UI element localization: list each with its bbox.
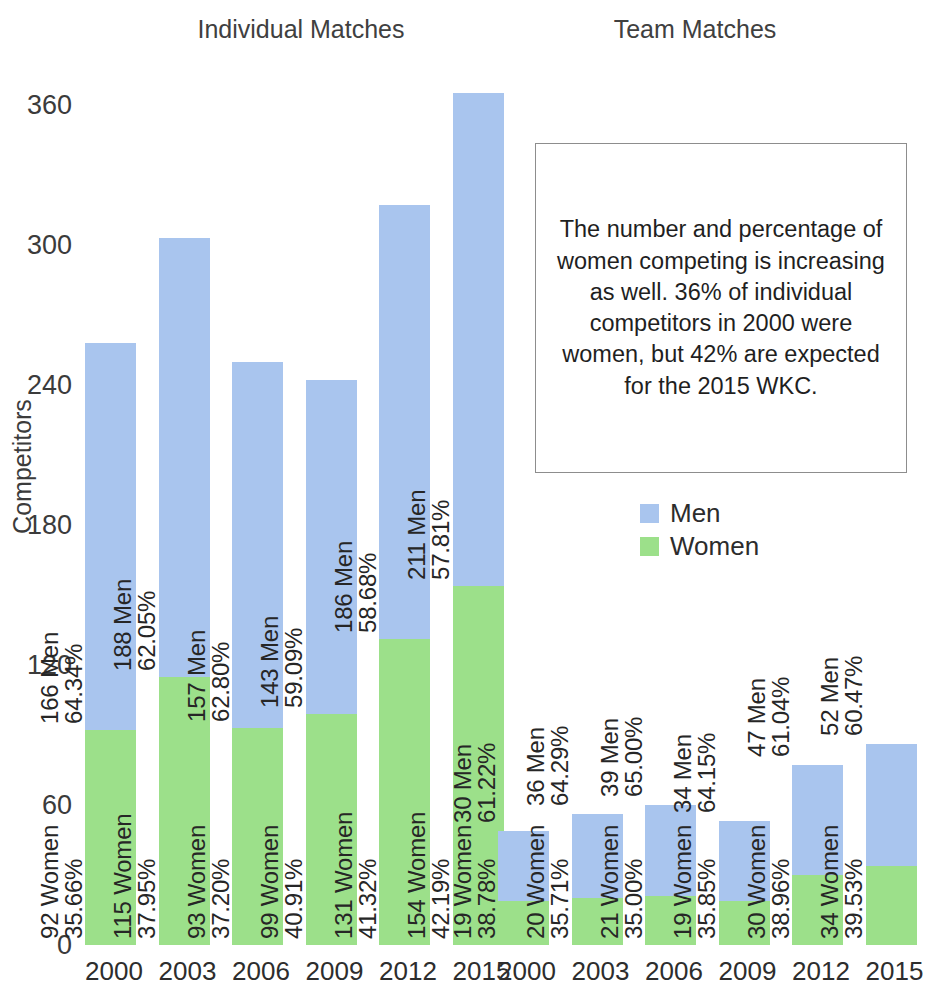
bar-label-women-percent: 39.53% (842, 825, 866, 939)
x-axis-tick-label: 2012 (792, 956, 843, 987)
bar-label-women-count: 115 Women (109, 814, 136, 939)
bar-label-women-count: 30 Women (742, 825, 769, 939)
bar-segment-men[interactable]: 188 Men62.05% (159, 238, 210, 677)
bar-label-men: 166 Men64.34% (37, 632, 86, 724)
bar-label-women-percent: 35.85% (695, 825, 719, 939)
bar-label-men-percent: 62.80% (209, 630, 233, 722)
bar-label-men-percent: 58.68% (356, 541, 380, 633)
bar-label-men: 36 Men64.29% (524, 726, 573, 806)
bar-label-men-count: 36 Men (522, 728, 549, 807)
x-axis-tick-label: 2003 (572, 956, 623, 987)
bar-group[interactable]: 34 Women39.53%52 Men60.47% (866, 744, 917, 945)
bar-label-men-percent: 64.29% (548, 726, 572, 806)
bar-label-women: 99 Women40.91% (258, 825, 307, 939)
legend-item-label: Men (670, 498, 721, 529)
chart-canvas: Individual Matches Team Matches Competit… (0, 0, 927, 991)
bar-label-women: 131 Women41.32% (331, 812, 380, 939)
legend-swatch-icon (640, 504, 659, 523)
bar-label-women-count: 21 Women (595, 825, 622, 939)
bar-label-women-percent: 37.20% (209, 825, 233, 939)
bar-label-men-count: 30 Men (448, 744, 475, 823)
bar-label-women: 34 Women39.53% (818, 825, 867, 939)
x-axis-tick-label: 2015 (453, 956, 504, 987)
bar-label-men: 143 Men59.09% (258, 616, 307, 708)
bar-label-men-count: 157 Men (182, 630, 209, 722)
legend-item-label: Women (670, 531, 759, 562)
bar-label-men-count: 186 Men (329, 541, 356, 633)
bar-label-women-count: 131 Women (329, 812, 356, 939)
bar-label-women-count: 19 Women (448, 825, 475, 939)
x-axis-tick-label: 2000 (85, 956, 136, 987)
bar-label-men-percent: 64.15% (695, 733, 719, 813)
bar-label-women-count: 19 Women (669, 825, 696, 939)
bar-label-men-count: 47 Men (742, 679, 769, 758)
bar-label-women: 154 Women42.19% (405, 812, 454, 939)
bar-label-women-count: 154 Women (403, 812, 430, 939)
bar-label-men-percent: 64.34% (62, 632, 86, 724)
bar-label-men-percent: 62.05% (135, 579, 159, 671)
bar-label-men: 30 Men61.22% (450, 743, 499, 823)
bar-label-men-percent: 57.81% (429, 490, 453, 580)
bar-label-women-percent: 40.91% (282, 825, 306, 939)
x-axis-tick-label: 2006 (645, 956, 696, 987)
bar-label-men: 39 Men65.00% (597, 717, 646, 797)
bar-label-women-percent: 37.95% (135, 814, 159, 939)
bar-label-women: 19 Women35.85% (671, 825, 720, 939)
bar-label-women: 19 Women38.78% (450, 825, 499, 939)
annotation-text: The number and percentage of women compe… (550, 214, 892, 402)
bar-label-women: 20 Women35.71% (524, 825, 573, 939)
bar-segment-men[interactable]: 211 Men57.81% (453, 93, 504, 585)
bar-segment-women[interactable]: 34 Women39.53% (866, 866, 917, 945)
bar-label-women: 30 Women38.96% (744, 825, 793, 939)
bar-label-men-count: 52 Men (816, 658, 843, 737)
bar-label-men-count: 188 Men (109, 579, 136, 671)
bar-label-men-count: 166 Men (35, 632, 62, 724)
legend-item[interactable]: Women (640, 530, 759, 563)
bar-label-women-count: 34 Women (816, 825, 843, 939)
x-axis-tick-label: 2012 (379, 956, 430, 987)
bar-label-women-count: 20 Women (522, 825, 549, 939)
bar-label-men-count: 34 Men (669, 735, 696, 814)
bar-label-men: 157 Men62.80% (184, 630, 233, 722)
bar-label-women: 21 Women35.00% (597, 825, 646, 939)
x-axis-tick-label: 2009 (306, 956, 357, 987)
bar-label-men-percent: 59.09% (282, 616, 306, 708)
x-axis-tick-label: 2009 (719, 956, 770, 987)
bar-label-women-percent: 38.78% (475, 825, 499, 939)
bar-label-men-percent: 61.22% (475, 743, 499, 823)
legend-item[interactable]: Men (640, 497, 759, 530)
bar-label-women-count: 93 Women (182, 825, 209, 939)
bar-label-women-percent: 35.66% (62, 825, 86, 939)
bar-label-women: 92 Women35.66% (37, 825, 86, 939)
legend-swatch-icon (640, 537, 659, 556)
x-axis-tick-label: 2003 (159, 956, 210, 987)
bar-label-women-count: 99 Women (256, 825, 283, 939)
x-axis-tick-label: 2015 (866, 956, 917, 987)
bar-segment-men[interactable]: 52 Men60.47% (866, 744, 917, 865)
x-axis-tick-label: 2006 (232, 956, 283, 987)
bar-label-men: 188 Men62.05% (111, 579, 160, 671)
bar-label-men: 34 Men64.15% (671, 733, 720, 813)
legend: MenWomen (640, 497, 759, 563)
bar-label-men: 47 Men61.04% (744, 677, 793, 757)
bar-label-women-percent: 38.96% (769, 825, 793, 939)
bar-label-women-count: 92 Women (35, 825, 62, 939)
bar-label-women-percent: 35.71% (548, 825, 572, 939)
bar-label-men-count: 39 Men (595, 718, 622, 797)
bar-label-women-percent: 41.32% (356, 812, 380, 939)
annotation-callout-box: The number and percentage of women compe… (535, 143, 907, 473)
bar-label-women: 93 Women37.20% (184, 825, 233, 939)
bar-label-women-percent: 35.00% (622, 825, 646, 939)
bar-label-men: 52 Men60.47% (818, 656, 867, 736)
bar-label-men-percent: 61.04% (769, 677, 793, 757)
bar-label-women: 115 Women37.95% (111, 814, 160, 939)
bar-label-men-count: 211 Men (403, 490, 430, 580)
bar-label-men-count: 143 Men (256, 616, 283, 708)
x-axis-tick-label: 2000 (498, 956, 549, 987)
bar-segment-men[interactable]: 166 Men64.34% (85, 343, 136, 730)
bar-label-men: 211 Men57.81% (405, 490, 454, 580)
bar-label-men: 186 Men58.68% (331, 541, 380, 633)
bar-label-men-percent: 65.00% (622, 717, 646, 797)
bar-label-men-percent: 60.47% (842, 656, 866, 736)
